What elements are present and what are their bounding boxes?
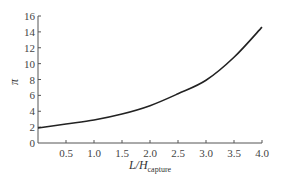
x-axis-label: L/Hcapture	[128, 158, 172, 174]
series-line	[38, 27, 262, 128]
x-tick-label: 3.5	[227, 147, 241, 159]
x-axis-label-subscript: capture	[148, 165, 172, 174]
x-axis-label-main: L/H	[128, 158, 149, 172]
plot-area	[38, 27, 262, 128]
y-axis-label: π	[7, 78, 21, 85]
y-tick-label: 10	[24, 58, 36, 70]
y-tick-label: 8	[30, 74, 36, 86]
x-tick-label: 4.0	[255, 147, 269, 159]
x-tick-label: 1.0	[87, 147, 101, 159]
x-tick-label: 1.5	[115, 147, 129, 159]
x-tick-label: 0.5	[59, 147, 73, 159]
x-tick-label: 3.0	[199, 147, 213, 159]
y-tick-label: 0	[30, 137, 36, 149]
y-tick-label: 14	[24, 26, 36, 38]
y-tick-label: 12	[24, 42, 35, 54]
line-chart: 0246810121416 0.51.01.52.02.53.03.54.0 π…	[0, 0, 281, 183]
y-tick-label: 4	[30, 105, 36, 117]
y-tick-label: 16	[24, 10, 36, 22]
y-tick-label: 6	[30, 89, 36, 101]
x-tick-label: 2.5	[171, 147, 185, 159]
x-axis: 0.51.01.52.02.53.03.54.0	[38, 140, 269, 159]
y-tick-label: 2	[30, 121, 36, 133]
